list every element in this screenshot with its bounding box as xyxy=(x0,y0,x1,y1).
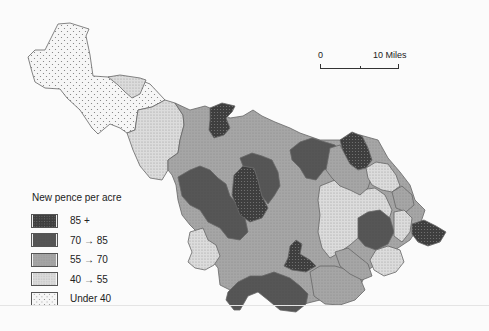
legend-swatch-40-55 xyxy=(31,272,58,286)
scale-end-label: 10 Miles xyxy=(373,50,407,60)
legend-label: Under 40 xyxy=(70,293,111,304)
scale-bar-midtick xyxy=(360,66,361,68)
legend-swatch-85plus xyxy=(31,214,58,228)
region-85plus-east xyxy=(412,220,446,246)
legend-item-70-85: 70 → 85 xyxy=(30,231,160,251)
page-rule xyxy=(0,305,489,306)
legend-item-55-70: 55 → 70 xyxy=(30,250,160,270)
legend-label: 55 → 70 xyxy=(70,254,108,265)
legend-title: New pence per acre xyxy=(32,192,160,203)
legend-swatch-under-40 xyxy=(31,292,58,306)
legend-item-40-55: 40 → 55 xyxy=(30,270,160,290)
legend-swatch-70-85 xyxy=(31,233,58,247)
legend-item-85plus: 85 + xyxy=(30,211,160,231)
legend-label: 70 → 85 xyxy=(70,235,108,246)
legend-label: 85 + xyxy=(70,215,90,226)
legend-swatch-55-70 xyxy=(31,253,58,267)
scale-start-label: 0 xyxy=(318,50,323,60)
scale-bar-line xyxy=(320,64,399,69)
legend: New pence per acre 85 + 70 → 85 55 → 70 … xyxy=(30,192,160,309)
legend-label: 40 → 55 xyxy=(70,274,108,285)
scale-bar: 0 10 Miles xyxy=(318,50,458,74)
